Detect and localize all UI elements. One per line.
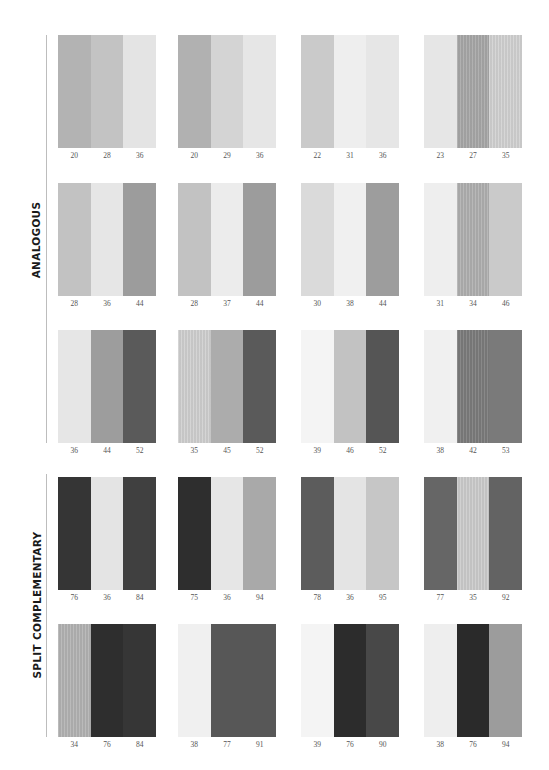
- section-title: ANALOGOUS: [30, 202, 42, 279]
- swatch-group: 202936: [178, 35, 276, 160]
- swatch-value-label: 28: [91, 151, 124, 160]
- swatch-value-label: 46: [334, 446, 367, 455]
- swatch-values: 354552: [178, 446, 276, 455]
- swatch-values: 283744: [178, 299, 276, 308]
- swatch-values: 347684: [58, 740, 156, 749]
- swatch-value-label: 36: [243, 151, 276, 160]
- color-bar: [457, 330, 490, 443]
- swatch-value-label: 23: [424, 151, 457, 160]
- swatch-strip: [424, 35, 522, 148]
- swatch-strip: [301, 477, 399, 590]
- color-bar: [178, 183, 211, 296]
- swatch-value-label: 29: [211, 151, 244, 160]
- swatch-value-label: 36: [334, 593, 367, 602]
- swatch-value-label: 34: [58, 740, 91, 749]
- swatch-value-label: 76: [58, 593, 91, 602]
- swatch-values: 303844: [301, 299, 399, 308]
- swatch-value-label: 76: [457, 740, 490, 749]
- swatch-group: 397690: [301, 624, 399, 749]
- swatch-value-label: 37: [211, 299, 244, 308]
- color-bar: [366, 330, 399, 443]
- swatch-value-label: 38: [424, 740, 457, 749]
- swatch-value-label: 84: [123, 593, 156, 602]
- color-bar: [424, 330, 457, 443]
- swatch-value-label: 36: [91, 593, 124, 602]
- swatch-group: 384253: [424, 330, 522, 455]
- swatch-value-label: 76: [334, 740, 367, 749]
- swatch-strip: [58, 330, 156, 443]
- color-bar: [489, 477, 522, 590]
- color-bar: [457, 477, 490, 590]
- swatch-values: 384253: [424, 446, 522, 455]
- color-bar: [366, 624, 399, 737]
- swatch-values: 387791: [178, 740, 276, 749]
- swatch-value-label: 53: [489, 446, 522, 455]
- section-divider-line: [46, 474, 47, 737]
- color-bar: [58, 330, 91, 443]
- swatch-value-label: 39: [301, 446, 334, 455]
- swatch-values: 394652: [301, 446, 399, 455]
- color-bar: [211, 624, 244, 737]
- swatch-strip: [178, 477, 276, 590]
- swatch-value-label: 28: [178, 299, 211, 308]
- swatch-strip: [178, 183, 276, 296]
- swatch-value-label: 22: [301, 151, 334, 160]
- color-bar: [366, 183, 399, 296]
- color-bar: [211, 477, 244, 590]
- swatch-group: 232735: [424, 35, 522, 160]
- color-bar: [123, 183, 156, 296]
- swatch-group: 387694: [424, 624, 522, 749]
- swatch-value-label: 44: [366, 299, 399, 308]
- color-bar: [457, 35, 490, 148]
- color-bar: [178, 477, 211, 590]
- swatch-group: 753694: [178, 477, 276, 602]
- swatch-value-label: 36: [91, 299, 124, 308]
- color-bar: [301, 624, 334, 737]
- color-bar: [424, 35, 457, 148]
- swatch-value-label: 38: [334, 299, 367, 308]
- color-bar: [301, 477, 334, 590]
- swatch-values: 753694: [178, 593, 276, 602]
- swatch-values: 223136: [301, 151, 399, 160]
- swatch-strip: [58, 183, 156, 296]
- swatch-strip: [424, 183, 522, 296]
- swatch-values: 283644: [58, 299, 156, 308]
- swatch-value-label: 20: [58, 151, 91, 160]
- color-bar: [424, 624, 457, 737]
- swatch-group: 223136: [301, 35, 399, 160]
- color-bar: [58, 35, 91, 148]
- color-bar: [178, 624, 211, 737]
- color-bar: [91, 477, 124, 590]
- color-bar: [211, 330, 244, 443]
- color-bar: [243, 477, 276, 590]
- color-bar: [178, 35, 211, 148]
- color-bar: [366, 35, 399, 148]
- swatch-values: 364452: [58, 446, 156, 455]
- swatch-value-label: 91: [243, 740, 276, 749]
- color-bar: [301, 330, 334, 443]
- color-bar: [123, 624, 156, 737]
- color-bar: [457, 624, 490, 737]
- swatch-group: 763684: [58, 477, 156, 602]
- swatch-value-label: 35: [489, 151, 522, 160]
- color-bar: [334, 624, 367, 737]
- color-bar: [211, 183, 244, 296]
- color-bar: [243, 330, 276, 443]
- color-bar: [457, 183, 490, 296]
- swatch-values: 232735: [424, 151, 522, 160]
- color-bar: [243, 35, 276, 148]
- section-divider-line: [46, 35, 47, 443]
- swatch-values: 313446: [424, 299, 522, 308]
- swatch-value-label: 90: [366, 740, 399, 749]
- color-bar: [91, 183, 124, 296]
- swatch-value-label: 52: [123, 446, 156, 455]
- swatch-group: 283744: [178, 183, 276, 308]
- swatch-value-label: 77: [211, 740, 244, 749]
- swatch-strip: [178, 35, 276, 148]
- swatch-strip: [424, 330, 522, 443]
- swatch-value-label: 30: [301, 299, 334, 308]
- swatch-strip: [178, 624, 276, 737]
- swatch-group: 387791: [178, 624, 276, 749]
- color-bar: [178, 330, 211, 443]
- swatch-values: 783695: [301, 593, 399, 602]
